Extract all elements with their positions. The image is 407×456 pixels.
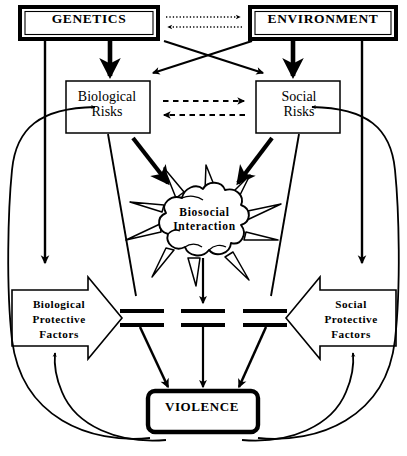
biological-risks-to-left-barrier-line [108, 134, 136, 296]
protective-barrier-left [120, 311, 164, 325]
social-risks-to-biosocial-arrow [238, 138, 272, 183]
violence-to-social-risks-feedback [258, 107, 399, 439]
environment-node [250, 7, 396, 39]
biological-risks-node [66, 81, 150, 133]
biological-risks-to-biosocial-arrow [133, 138, 168, 183]
violence-to-biological-risks-feedback [8, 107, 150, 439]
left-barrier-to-violence-arrow [140, 327, 168, 387]
biosocial-violence-diagram: GENETICS ENVIRONMENT Biological Risks So… [0, 0, 407, 456]
risks-reciprocal-dashed-arrows [163, 101, 245, 115]
crossover-arrows [153, 41, 263, 73]
genetics-environment-dotted-arrows [166, 17, 242, 27]
social-risks-to-right-barrier-line [271, 134, 299, 296]
genetics-node [20, 7, 158, 39]
protective-barrier-center [181, 311, 225, 325]
right-barrier-to-violence-arrow [239, 327, 266, 387]
diagram-canvas [0, 0, 407, 456]
biological-protective-factors-node [12, 277, 122, 359]
protective-barrier-right [243, 311, 287, 325]
social-protective-factors-node [286, 277, 396, 359]
violence-node [148, 391, 258, 432]
